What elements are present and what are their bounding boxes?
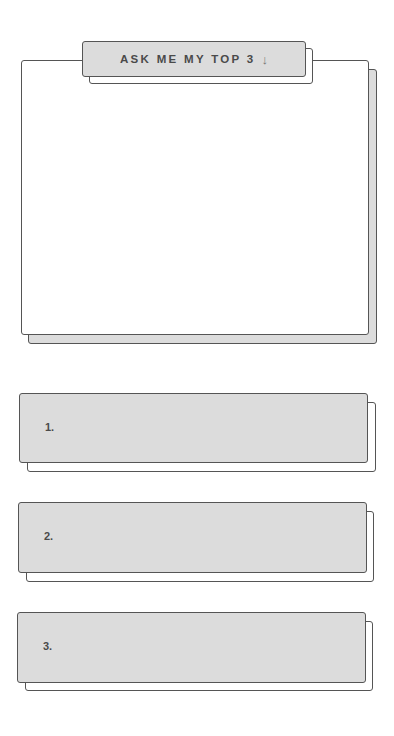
rank-number: 1. xyxy=(45,421,54,433)
rank-card-2[interactable]: 2. xyxy=(18,502,367,573)
rank-number: 3. xyxy=(43,640,52,652)
rank-number: 2. xyxy=(44,530,53,542)
down-arrow-icon: ↓ xyxy=(261,52,268,67)
rank-card-1[interactable]: 1. xyxy=(19,393,368,463)
rank-card-3[interactable]: 3. xyxy=(17,612,366,683)
title-tab: ASK ME MY TOP 3 ↓ xyxy=(82,41,306,77)
title-label: ASK ME MY TOP 3 xyxy=(120,53,255,65)
answer-panel[interactable] xyxy=(21,60,369,335)
